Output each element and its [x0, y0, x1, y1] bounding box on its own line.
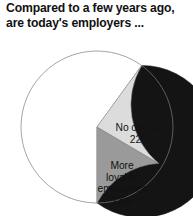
slice-label-less-loyal-line-1: Less loyal: [14, 99, 110, 111]
slice-label-more-loyal-value: 13%: [88, 195, 156, 207]
pie-chart-figure: Compared to a few years ago, are today's…: [0, 0, 193, 216]
slice-label-more-loyal-line-3: employees: [88, 183, 156, 195]
slice-label-more-loyal: More loyal to employees 13%: [88, 160, 156, 206]
slice-label-no-change: No change 22%: [102, 122, 178, 145]
slice-label-no-change-line-1: No change: [102, 122, 178, 134]
slice-label-less-loyal-value: 65%: [14, 122, 110, 134]
slice-label-less-loyal: Less loyal to employees 65%: [14, 99, 110, 134]
slice-label-no-change-value: 22%: [102, 134, 178, 146]
slice-label-more-loyal-line-2: loyal to: [88, 172, 156, 184]
pie-chart-area: Less loyal to employees 65% No change 22…: [0, 0, 193, 216]
slice-label-less-loyal-line-2: to employees: [14, 111, 110, 123]
slice-label-more-loyal-line-1: More: [88, 160, 156, 172]
